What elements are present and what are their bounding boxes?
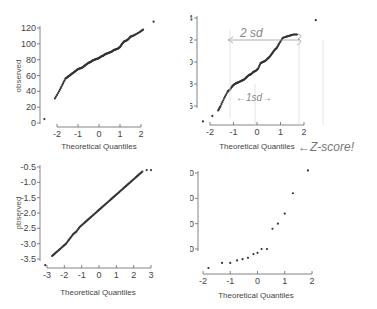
- x-tick-label: 0: [254, 127, 259, 137]
- x-axis-label: Theoretical Quantiles: [219, 142, 295, 151]
- y-tick-label: 40: [190, 193, 194, 203]
- y-tick-label: -1.0: [20, 177, 36, 187]
- x-tick-label: -1: [78, 270, 86, 280]
- x-tick-label: 2: [301, 127, 306, 137]
- plot-area: 020406080100120-2-1012: [21, 21, 155, 139]
- y-axis-label: observed: [14, 60, 23, 93]
- data-point: [202, 120, 204, 122]
- x-tick-label: 1: [114, 270, 119, 280]
- data-point: [150, 169, 152, 171]
- y-axis-label: observed: [14, 197, 23, 230]
- y-tick-label: 10: [190, 57, 193, 67]
- data-point: [241, 258, 243, 260]
- x-tick-label: -2: [60, 270, 68, 280]
- y-tick-label: 12: [190, 35, 193, 45]
- x-axis-label: Theoretical Quantiles: [60, 288, 136, 297]
- y-tick-label: 0: [190, 244, 194, 254]
- data-point: [153, 21, 155, 23]
- data-point: [296, 33, 298, 35]
- x-tick-label: 0: [96, 129, 101, 139]
- x-tick-label: 1: [282, 276, 287, 286]
- chart-svg: -3.5-3.0-2.5-2.0-1.5-1.0-0.5-3-2-10123 o…: [0, 155, 190, 309]
- x-tick-label: -2: [199, 276, 207, 286]
- x-tick-label: 1: [278, 127, 283, 137]
- y-tick-label: 20: [26, 102, 36, 112]
- data-point: [260, 248, 262, 250]
- x-tick-label: -1: [226, 276, 234, 286]
- qq-plot-top-left: 020406080100120-2-1012 observed Theoreti…: [0, 0, 190, 155]
- annotation-1sd: ←1sd→: [236, 92, 272, 103]
- data-point: [247, 257, 249, 259]
- data-point: [284, 212, 286, 214]
- data-point: [277, 223, 279, 225]
- data-point: [146, 169, 148, 171]
- data-point: [44, 264, 46, 266]
- data-point: [43, 118, 45, 120]
- x-tick-label: -2: [206, 127, 214, 137]
- x-axis-label: Theoretical Quantiles: [61, 142, 137, 151]
- chart-svg: 020406080100120-2-1012 observed Theoreti…: [0, 0, 190, 155]
- data-point: [141, 171, 143, 173]
- plot-area: -3.5-3.0-2.5-2.0-1.5-1.0-0.5-3-2-10123: [20, 162, 153, 280]
- annotation-2sd: 2 sd: [239, 26, 263, 40]
- y-tick-label: 6: [190, 101, 193, 111]
- x-tick-label: 2: [131, 270, 136, 280]
- data-point: [252, 253, 254, 255]
- x-tick-label: -1: [74, 129, 82, 139]
- y-tick-label: -3.5: [20, 254, 36, 264]
- data-point: [256, 252, 258, 254]
- data-point: [307, 169, 309, 171]
- data-point: [219, 105, 221, 107]
- data-point: [207, 267, 209, 269]
- chart-svg: 68101214-2-1012 observed Theoretical Qua…: [190, 0, 377, 155]
- x-tick-label: 1: [117, 129, 122, 139]
- x-tick-label: 0: [255, 276, 260, 286]
- data-point: [236, 259, 238, 261]
- y-tick-label: 8: [190, 79, 193, 89]
- x-tick-label: -1: [229, 127, 237, 137]
- data-point: [229, 262, 231, 264]
- data-point: [266, 248, 268, 250]
- annotation-zscore: ←Z-score!: [298, 140, 355, 154]
- x-tick-label: -2: [53, 129, 61, 139]
- y-tick-label: 0: [31, 118, 36, 128]
- x-tick-label: 0: [96, 270, 101, 280]
- data-point: [315, 19, 317, 21]
- qq-plot-bottom-left: -3.5-3.0-2.5-2.0-1.5-1.0-0.5-3-2-10123 o…: [0, 155, 190, 309]
- data-point: [142, 28, 144, 30]
- data-point: [211, 115, 213, 117]
- plot-area: 0204060-2-1012: [190, 168, 315, 286]
- chart-svg: 0204060-2-1012 observed Theoretical Quan…: [190, 155, 377, 309]
- qq-plot-bottom-right: 0204060-2-1012 observed Theoretical Quan…: [190, 155, 377, 309]
- x-tick-label: 2: [309, 276, 314, 286]
- handwritten-annotations: [228, 30, 323, 125]
- data-point: [271, 228, 273, 230]
- y-tick-label: 14: [190, 13, 193, 23]
- qq-plot-top-right: 68101214-2-1012 observed Theoretical Qua…: [190, 0, 377, 155]
- y-tick-label: 100: [21, 39, 36, 49]
- y-tick-label: -3.0: [20, 239, 36, 249]
- x-tick-label: 2: [138, 129, 143, 139]
- data-point: [221, 262, 223, 264]
- x-axis-label: Theoretical Quantiles: [218, 291, 294, 300]
- y-tick-label: 40: [26, 86, 36, 96]
- y-tick-label: 120: [21, 23, 36, 33]
- y-tick-label: 20: [190, 219, 194, 229]
- x-tick-label: -3: [43, 270, 51, 280]
- y-tick-label: 80: [26, 55, 36, 65]
- y-tick-label: -0.5: [20, 162, 36, 172]
- x-tick-label: 3: [148, 270, 153, 280]
- data-point: [292, 192, 294, 194]
- y-tick-label: 60: [190, 168, 194, 178]
- y-tick-label: 60: [26, 71, 36, 81]
